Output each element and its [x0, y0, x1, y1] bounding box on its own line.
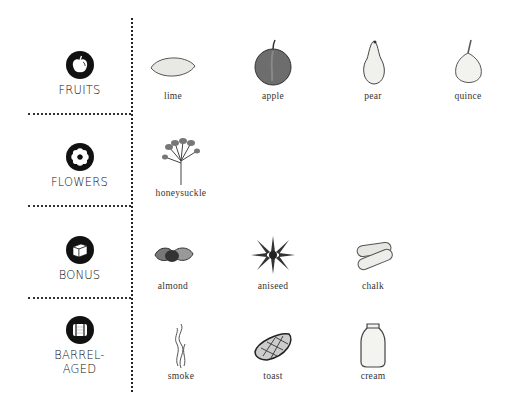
- item-apple: apple: [233, 37, 313, 101]
- barrel-icon: [66, 316, 94, 344]
- almond-icon: [143, 232, 203, 278]
- category-label: FLOWERS: [28, 175, 131, 189]
- chalk-icon: [343, 232, 403, 278]
- item-smoke: smoke: [141, 322, 221, 381]
- item-label: aniseed: [233, 281, 313, 291]
- horizontal-divider: [28, 205, 131, 207]
- item-honeysuckle: honeysuckle: [141, 135, 221, 198]
- item-label: lime: [133, 91, 213, 101]
- item-almond: almond: [133, 232, 213, 291]
- item-label: quince: [428, 91, 508, 101]
- honeysuckle-icon: [151, 135, 211, 185]
- box-icon: [66, 236, 94, 264]
- pear-icon: [343, 37, 403, 88]
- item-label: chalk: [333, 281, 413, 291]
- item-label: toast: [233, 371, 313, 381]
- category-fruits: FRUITS: [28, 51, 131, 97]
- flower-icon: [66, 143, 94, 171]
- item-cream: cream: [333, 322, 413, 381]
- item-label: honeysuckle: [141, 188, 221, 198]
- item-pear: pear: [333, 37, 413, 101]
- apple-icon: [66, 51, 94, 79]
- lime-icon: [143, 44, 203, 88]
- toast-icon: [243, 322, 303, 368]
- category-label: BONUS: [28, 268, 131, 282]
- item-label: cream: [333, 371, 413, 381]
- horizontal-divider: [28, 113, 131, 115]
- category-label: FRUITS: [28, 83, 131, 97]
- item-toast: toast: [233, 322, 313, 381]
- category-barrel-aged: BARREL- AGED: [28, 316, 131, 376]
- category-bonus: BONUS: [28, 236, 131, 282]
- item-label: almond: [133, 281, 213, 291]
- cream-jar-icon: [343, 322, 403, 368]
- category-flowers: FLOWERS: [28, 143, 131, 189]
- item-label: pear: [333, 91, 413, 101]
- smoke-icon: [151, 322, 211, 368]
- category-label: BARREL- AGED: [28, 348, 131, 376]
- apple-icon: [243, 37, 303, 88]
- item-lime: lime: [133, 44, 213, 101]
- item-chalk: chalk: [333, 232, 413, 291]
- item-label: smoke: [141, 371, 221, 381]
- star-anise-icon: [243, 232, 303, 278]
- item-aniseed: aniseed: [233, 232, 313, 291]
- horizontal-divider: [28, 297, 131, 299]
- quince-icon: [438, 37, 498, 88]
- item-quince: quince: [428, 37, 508, 101]
- item-label: apple: [233, 91, 313, 101]
